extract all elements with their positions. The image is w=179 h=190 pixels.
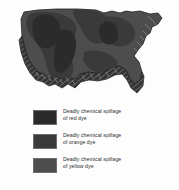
legend-label-yellow-line1: Deadly chemical spillage [63, 156, 175, 163]
legend-label-red-line2: of red dye [63, 115, 175, 122]
legend-item-yellow: Deadly chemical spillage of yellow dye [33, 158, 173, 182]
legend-label-orange: Deadly chemical spillage of orange dye [63, 132, 175, 147]
legend-item-red: Deadly chemical spillage of red dye [33, 110, 173, 134]
legend-label-yellow-line2: of yellow dye [63, 163, 175, 170]
map-area [0, 0, 179, 106]
figure-container: Deadly chemical spillage of red dye Dead… [0, 0, 179, 190]
united-states-choropleth-map [0, 0, 179, 106]
legend-swatch-yellow [33, 158, 57, 173]
legend-label-red-line1: Deadly chemical spillage [63, 108, 175, 115]
legend-swatch-red [33, 110, 57, 125]
legend-swatch-orange [33, 134, 57, 149]
legend-label-orange-line1: Deadly chemical spillage [63, 132, 175, 139]
legend-item-orange: Deadly chemical spillage of orange dye [33, 134, 173, 158]
map-legend: Deadly chemical spillage of red dye Dead… [0, 106, 179, 190]
legend-label-yellow: Deadly chemical spillage of yellow dye [63, 156, 175, 171]
legend-label-red: Deadly chemical spillage of red dye [63, 108, 175, 123]
legend-label-orange-line2: of orange dye [63, 139, 175, 146]
